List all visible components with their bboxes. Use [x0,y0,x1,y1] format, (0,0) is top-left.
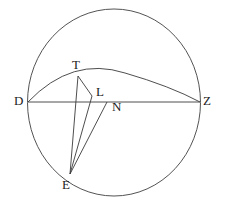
point-label-n: N [112,100,121,113]
arc-dtz [28,68,200,102]
point-label-d: D [14,94,23,107]
segment-en [70,102,107,174]
point-label-z: Z [203,94,211,107]
point-label-t: T [72,58,80,71]
segment-tl [78,76,92,96]
point-label-l: L [96,85,104,98]
point-label-e: E [62,178,70,191]
geometry-figure: D T L N Z E [0,0,226,207]
